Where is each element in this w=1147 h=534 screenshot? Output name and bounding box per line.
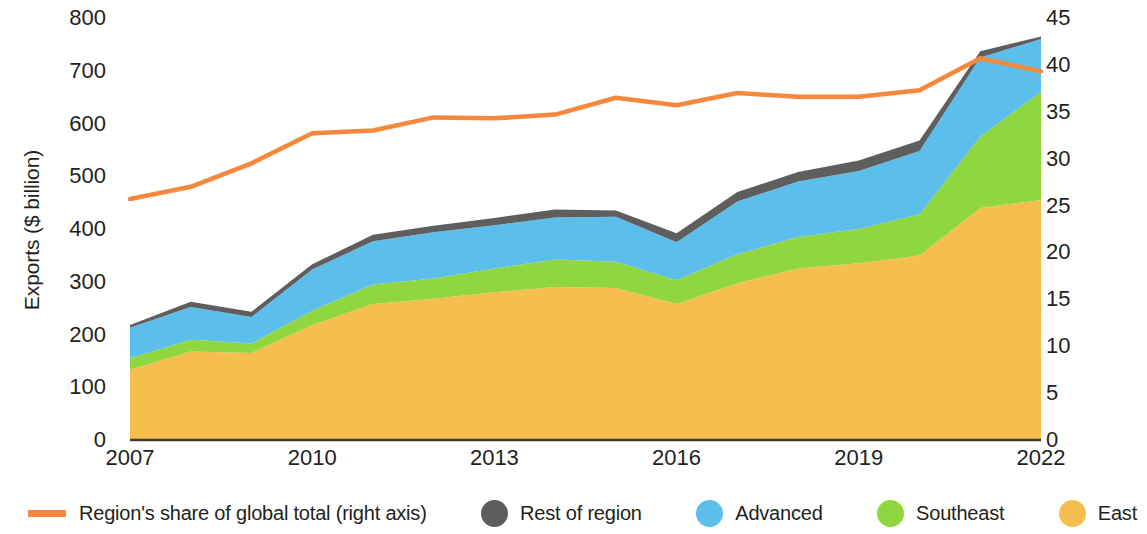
chart-legend: Region's share of global total (right ax… bbox=[0, 493, 1147, 534]
left-axis-tick: 100 bbox=[36, 376, 106, 398]
left-axis-tick: 400 bbox=[36, 218, 106, 240]
legend-region-share[interactable]: Region's share of global total (right ax… bbox=[28, 502, 427, 525]
x-axis-tick: 2013 bbox=[449, 447, 539, 469]
legend-rest-of-region[interactable]: Rest of region bbox=[481, 500, 642, 527]
legend-east[interactable]: East bbox=[1059, 500, 1137, 527]
left-axis-tick-group: 8007006005004003002001000 bbox=[36, 0, 106, 470]
x-axis-tick: 2019 bbox=[814, 447, 904, 469]
legend-item-label: Region's share of global total (right ax… bbox=[79, 502, 427, 525]
legend-item-label: Rest of region bbox=[520, 502, 642, 525]
legend-southeast[interactable]: Southeast bbox=[877, 500, 1004, 527]
legend-line-swatch-icon bbox=[28, 510, 66, 517]
left-axis-tick: 600 bbox=[36, 113, 106, 135]
legend-item-label: East bbox=[1098, 502, 1137, 525]
legend-advanced[interactable]: Advanced bbox=[696, 500, 822, 527]
left-axis-tick: 800 bbox=[36, 7, 106, 29]
x-axis-tick: 2010 bbox=[267, 447, 357, 469]
legend-dot-swatch-icon bbox=[877, 500, 904, 527]
x-axis-tick: 2022 bbox=[996, 447, 1086, 469]
chart-svg bbox=[130, 18, 1041, 440]
right-axis-tick: 30 bbox=[1046, 148, 1116, 170]
right-axis-tick: 5 bbox=[1046, 382, 1116, 404]
legend-dot-swatch-icon bbox=[1059, 500, 1086, 527]
left-axis-tick: 700 bbox=[36, 60, 106, 82]
x-axis-tick: 2007 bbox=[85, 447, 175, 469]
right-axis-tick: 45 bbox=[1046, 7, 1116, 29]
plot-area bbox=[130, 18, 1041, 440]
legend-item-label: Southeast bbox=[916, 502, 1004, 525]
x-axis-tick-group: 200720102013201620192022 bbox=[0, 447, 1147, 487]
x-axis-tick: 2016 bbox=[632, 447, 722, 469]
right-axis-tick-group: 454035302520151050 bbox=[1046, 0, 1116, 470]
right-axis-tick: 15 bbox=[1046, 288, 1116, 310]
right-axis-tick: 20 bbox=[1046, 241, 1116, 263]
right-axis-tick: 40 bbox=[1046, 54, 1116, 76]
left-axis-tick: 300 bbox=[36, 271, 106, 293]
left-axis-tick: 200 bbox=[36, 324, 106, 346]
right-axis-tick: 35 bbox=[1046, 101, 1116, 123]
legend-dot-swatch-icon bbox=[696, 500, 723, 527]
legend-dot-swatch-icon bbox=[481, 500, 508, 527]
chart-page: Exports ($ billion) Asia and Pacific sha… bbox=[0, 0, 1147, 534]
right-axis-tick: 25 bbox=[1046, 195, 1116, 217]
left-axis-tick: 500 bbox=[36, 165, 106, 187]
legend-item-label: Advanced bbox=[735, 502, 822, 525]
right-axis-tick: 10 bbox=[1046, 335, 1116, 357]
